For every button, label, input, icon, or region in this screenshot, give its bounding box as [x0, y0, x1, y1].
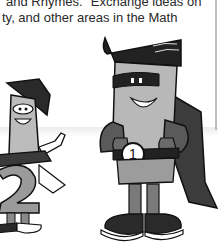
number-two-character-illustration: [0, 75, 105, 235]
text-line-1: and Rhymes." Exchange ideas on: [6, 0, 201, 10]
number-one-superhero-illustration: 1: [93, 32, 218, 245]
document-text: and Rhymes." Exchange ideas on ty, and o…: [2, 0, 201, 26]
text-line-2: ty, and other areas in the Math: [2, 10, 201, 26]
